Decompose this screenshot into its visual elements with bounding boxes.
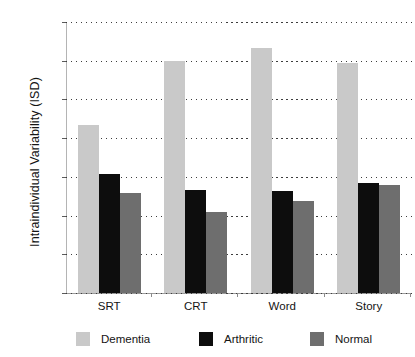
y-tick-mark	[62, 99, 66, 100]
plot-area: 02468101214	[66, 22, 412, 293]
legend-item-normal: Normal	[310, 330, 372, 348]
gridline	[66, 293, 412, 294]
legend-item-arthritic: Arthritic	[199, 330, 263, 348]
bar-word-dementia	[251, 48, 272, 293]
y-tick-mark	[62, 293, 66, 294]
bar-word-arthritic	[272, 191, 293, 293]
x-tick-mark	[410, 293, 411, 297]
legend-label-normal: Normal	[335, 333, 372, 345]
legend-swatch-dementia	[76, 332, 90, 346]
legend-label-arthritic: Arthritic	[224, 333, 263, 345]
bar-crt-normal	[206, 212, 227, 293]
bar-srt-dementia	[78, 125, 99, 293]
legend-label-dementia: Dementia	[101, 333, 150, 345]
chart-legend: DementiaArthriticNormal	[66, 330, 412, 352]
bar-srt-arthritic	[99, 174, 120, 293]
gridline	[66, 138, 412, 139]
gridline	[66, 99, 412, 100]
y-tick-mark	[62, 216, 66, 217]
x-axis-label-story: Story	[326, 300, 413, 312]
x-axis-label-crt: CRT	[153, 300, 240, 312]
legend-swatch-arthritic	[199, 332, 213, 346]
bar-story-arthritic	[358, 183, 379, 293]
legend-item-dementia: Dementia	[76, 330, 150, 348]
y-tick-mark	[62, 138, 66, 139]
bar-crt-dementia	[164, 61, 185, 293]
bar-crt-arthritic	[185, 190, 206, 293]
x-axis-label-srt: SRT	[66, 300, 153, 312]
legend-swatch-normal	[310, 332, 324, 346]
x-tick-mark	[324, 293, 325, 297]
bar-srt-normal	[120, 193, 141, 293]
gridline	[66, 61, 412, 62]
chart-container: Intraindividual Variability (ISD) 024681…	[0, 0, 415, 357]
bar-story-normal	[379, 185, 400, 293]
y-tick-mark	[62, 22, 66, 23]
y-tick-mark	[62, 61, 66, 62]
x-tick-mark	[151, 293, 152, 297]
gridline	[66, 22, 412, 23]
y-tick-mark	[62, 254, 66, 255]
y-axis-title: Intraindividual Variability (ISD)	[28, 17, 42, 307]
bar-word-normal	[293, 201, 314, 293]
x-tick-mark	[237, 293, 238, 297]
x-axis-label-word: Word	[239, 300, 326, 312]
bar-story-dementia	[337, 63, 358, 293]
y-tick-mark	[62, 177, 66, 178]
